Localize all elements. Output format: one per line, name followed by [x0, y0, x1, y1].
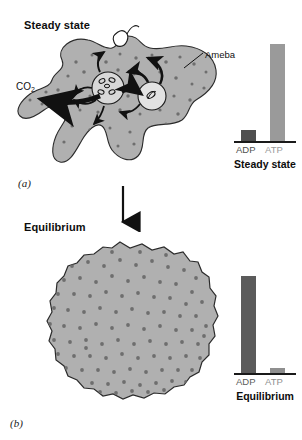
chart-equilibrium-axis — [234, 373, 296, 375]
mitochondrion-right — [138, 82, 166, 110]
tick-label-adp: ADP — [236, 144, 256, 155]
co2-label-subscript: 2 — [31, 86, 35, 93]
tick-label-adp: ADP — [236, 376, 256, 387]
chart-steady-state-plot — [232, 44, 298, 142]
bar-atp-steady-state — [270, 44, 285, 142]
chart-steady-state-ticks: ADP ATP — [232, 144, 298, 156]
tick-label-atp: ATP — [265, 144, 283, 155]
panel-b-heading: Equilibrium — [24, 221, 86, 233]
ameba-label: Ameba — [205, 49, 235, 60]
bar-adp-equilibrium — [241, 276, 256, 374]
chart-equilibrium: ADP ATP Equilibrium — [232, 276, 298, 400]
chart-equilibrium-title: Equilibrium — [232, 390, 298, 402]
chart-equilibrium-plot — [232, 276, 298, 374]
chart-equilibrium-ticks: ADP ATP — [232, 376, 298, 388]
figure-steady-state-vs-equilibrium: Steady state — [0, 0, 302, 440]
chart-steady-state: ADP ATP Steady state — [232, 44, 298, 168]
chart-steady-state-title: Steady state — [232, 158, 298, 170]
co2-label-base: CO — [16, 81, 31, 92]
tick-label-atp: ATP — [265, 376, 283, 387]
chart-steady-state-axis — [234, 141, 296, 143]
co2-label: CO2 — [16, 81, 35, 93]
panel-b-tag: (b) — [10, 417, 23, 429]
